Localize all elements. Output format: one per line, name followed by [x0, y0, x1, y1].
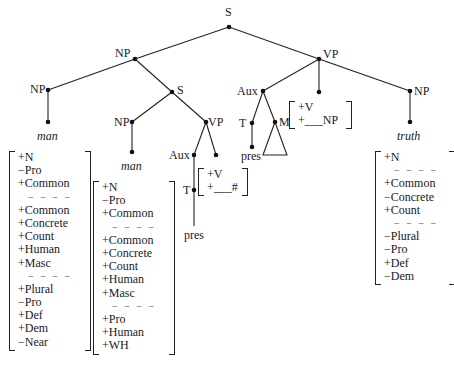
feature-separator: − − − −	[18, 191, 82, 204]
feature: +Common	[102, 207, 166, 220]
node-predicate-vp: VP	[323, 48, 338, 60]
node-head-np: NP	[30, 83, 45, 95]
node-root-s: S	[225, 6, 232, 18]
feature: +___#	[207, 181, 239, 194]
feature: +Common	[18, 204, 82, 217]
feature-separator: − − − −	[18, 270, 82, 283]
feature: +___NP	[298, 114, 343, 127]
feature: +Human	[18, 243, 82, 256]
node-relative-t: T	[183, 184, 190, 196]
node-relative-np: NP	[114, 116, 129, 128]
feature: +N	[384, 151, 446, 164]
feature: +Dem	[18, 322, 82, 335]
feature: −Near	[18, 336, 82, 349]
feature: +Common	[18, 177, 82, 190]
node-main-t: T	[239, 117, 246, 129]
node-subject-np: NP	[115, 47, 130, 59]
feature: +Masc	[18, 257, 82, 270]
feature: +Masc	[102, 287, 166, 300]
feature: −Pro	[384, 243, 446, 256]
feature: +Common	[384, 177, 446, 190]
feature-matrix-main-verb: +V +___NP	[298, 101, 343, 129]
feature-matrix-relative-verb: +V +___#	[207, 168, 239, 196]
feature-matrix-relative-man: +N −Pro +Common − − − − +Common +Concret…	[102, 181, 166, 355]
node-relative-vp: VP	[208, 116, 223, 128]
feature: +Count	[384, 204, 446, 217]
feature-matrix-truth: +N − − − − +Common −Concrete +Count − − …	[384, 151, 446, 285]
feature: +WH	[102, 339, 166, 352]
node-relative-aux: Aux	[169, 149, 190, 161]
feature-separator: − − − −	[102, 221, 166, 234]
feature: +Def	[384, 257, 446, 270]
feature-separator: − − − −	[102, 300, 166, 313]
feature: +Human	[102, 273, 166, 286]
feature: −Concrete	[384, 191, 446, 204]
node-main-aux: Aux	[237, 85, 258, 97]
feature: +Common	[102, 234, 166, 247]
feature: −Dem	[384, 270, 446, 283]
node-object-np: NP	[414, 85, 429, 97]
word-man-head: man	[37, 130, 58, 142]
feature-matrix-head-man: +N −Pro +Common − − − − +Common +Concret…	[18, 151, 82, 351]
word-truth: truth	[397, 130, 420, 142]
word-pres-main: pres	[241, 150, 261, 162]
word-pres-relative: pres	[184, 229, 204, 241]
node-relative-s: S	[177, 84, 184, 96]
word-man-relative: man	[121, 160, 142, 172]
